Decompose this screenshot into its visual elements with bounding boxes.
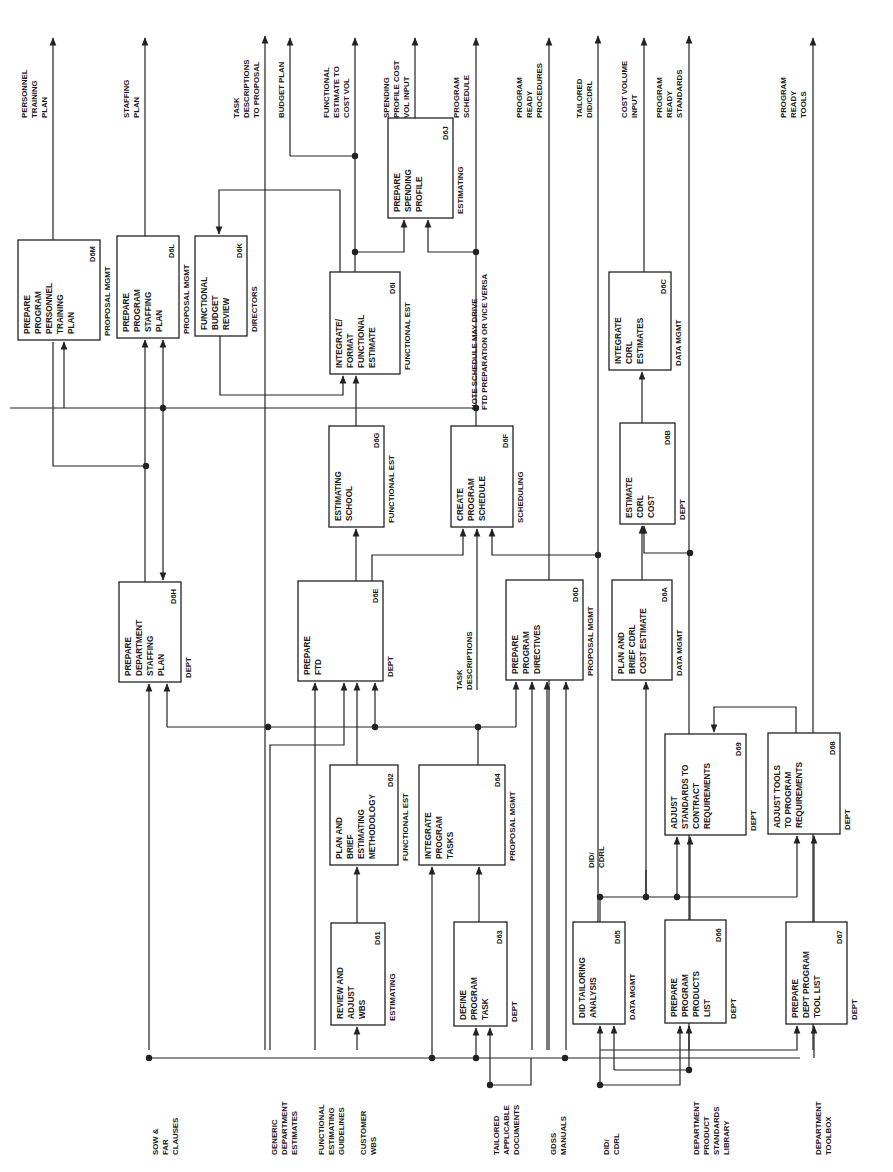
box-label-line: BRIEF bbox=[346, 834, 355, 859]
did-cdrl-label: DID/ bbox=[587, 852, 596, 868]
output-label: BUDGET PLAN bbox=[277, 61, 286, 118]
output-label: PROGRAM bbox=[655, 77, 664, 118]
box-label-line: FTD bbox=[314, 659, 323, 675]
activity-box-d62: PLAN ANDBRIEFESTIMATINGMETHODOLOGYD62FUN… bbox=[330, 765, 410, 865]
box-node-id: D6E bbox=[371, 588, 380, 603]
box-label-line: SCHOOL bbox=[345, 486, 354, 521]
input-label: SOW & bbox=[151, 1128, 160, 1155]
box-label-line: ESTIMATING bbox=[334, 471, 343, 521]
box-label-line: TO PROGRAM bbox=[784, 772, 793, 828]
input-label: TOOLBOX bbox=[824, 1116, 833, 1155]
box-label-line: DEFINE bbox=[459, 989, 468, 1020]
box-label-line: CDRL bbox=[636, 495, 645, 518]
box-label-line: PREPARE bbox=[791, 978, 800, 1018]
output-label: PROGRAM bbox=[452, 77, 461, 118]
output-label: TRAINING bbox=[30, 80, 39, 118]
box-mechanism-label: PROPOSAL MGMT bbox=[182, 264, 191, 334]
input-label: FAR bbox=[161, 1139, 170, 1155]
box-label-line: PREPARE bbox=[122, 292, 131, 332]
activity-box-d6h: PREPAREDEPARTMENTSTAFFINGPLAND6HDEPT bbox=[119, 582, 193, 682]
box-label-line: DID TAILORING bbox=[578, 957, 587, 1018]
box-mechanism-label: DEPT bbox=[749, 810, 758, 831]
box-label-line: TOOL LIST bbox=[813, 976, 822, 1018]
input-label: DEPARTMENT bbox=[692, 1101, 701, 1155]
box-label-line: ADJUST bbox=[670, 796, 679, 829]
output-label: STANDARDS bbox=[675, 70, 684, 118]
box-label-line: CDRL bbox=[625, 341, 634, 364]
box-label-line: ANALYSIS bbox=[589, 977, 598, 1018]
box-label-line: PLAN bbox=[157, 654, 166, 676]
box-node-id: D67 bbox=[835, 930, 844, 944]
box-label-line: PROGRAM bbox=[522, 631, 531, 674]
output-label: TASK bbox=[232, 97, 241, 118]
box-node-id: D61 bbox=[373, 931, 382, 945]
box-label-line: REQUIREMENTS bbox=[703, 763, 712, 829]
input-label: GENERIC bbox=[270, 1119, 279, 1155]
box-mechanism-label: DATA MGMT bbox=[674, 320, 683, 366]
box-label-line: WBS bbox=[358, 999, 367, 1019]
box-label-line: PROFILE bbox=[415, 176, 424, 212]
input-label: PRODUCT bbox=[702, 1116, 711, 1155]
box-label-line: CONTRACT bbox=[692, 783, 701, 829]
input-label: DOCUMENTS bbox=[512, 1105, 521, 1155]
activity-box-d69: ADJUSTSTANDARDS TOCONTRACTREQUIREMENTSD6… bbox=[665, 734, 758, 835]
box-node-id: D69 bbox=[734, 742, 743, 756]
output-label: VOL INPUT bbox=[402, 76, 411, 118]
input-label: STANDARDS bbox=[712, 1107, 721, 1155]
box-label-line: REVIEW AND bbox=[336, 967, 345, 1019]
box-mechanism-label: DEPT bbox=[678, 499, 687, 520]
input-label: CDRL bbox=[612, 1133, 621, 1155]
output-label: PROGRAM bbox=[779, 77, 788, 118]
box-label-line: ESTIMATE bbox=[368, 327, 377, 368]
box-label-line: PROGRAM bbox=[34, 291, 43, 334]
box-label-line: PLAN AND bbox=[335, 817, 344, 859]
box-label-line: METHODOLOGY bbox=[368, 793, 377, 859]
box-label-line: SCHEDULE bbox=[478, 475, 487, 521]
output-label: PERSONNEL bbox=[20, 69, 29, 118]
idef0-process-diagram: PREPAREPROGRAMPERSONNELTRAININGPLAND6MPR… bbox=[0, 0, 893, 1172]
activity-box-d6k: FUNCTIONALBUDGETREVIEWD6KDIRECTORS bbox=[195, 236, 259, 336]
task-descriptions-label: TASK bbox=[455, 669, 464, 690]
activity-box-d66: PREPAREPROGRAMPRODUCTSLISTD66DEPT bbox=[665, 920, 738, 1023]
box-label-line: ADJUST TOOLS bbox=[773, 764, 782, 828]
box-label-line: PROGRAM bbox=[470, 977, 479, 1020]
box-label-line: LIST bbox=[703, 999, 712, 1017]
task-descriptions-label: DESCRIPTIONS bbox=[465, 632, 474, 690]
input-label: TAILORED bbox=[492, 1115, 501, 1155]
activity-box-d6i: INTEGRATE/FORMATFUNCTIONALESTIMATED6IFUN… bbox=[330, 272, 412, 374]
box-label-line: STAFFING bbox=[144, 292, 153, 332]
box-label-line: INTEGRATE/ bbox=[335, 318, 344, 368]
input-label: ESTIMATING bbox=[327, 1107, 336, 1155]
box-mechanism-label: PROPOSAL MGMT bbox=[508, 791, 517, 861]
box-label-line: PREPARE bbox=[23, 294, 32, 334]
box-label-line: PROGRAM bbox=[435, 816, 444, 859]
box-mechanism-label: DEPT bbox=[843, 809, 852, 830]
box-mechanism-label: PROPOSAL MGMT bbox=[586, 606, 595, 676]
box-node-id: D62 bbox=[386, 773, 395, 787]
box-node-id: D6J bbox=[441, 126, 450, 140]
box-mechanism-label: PROPOSAL MGMT bbox=[103, 266, 112, 336]
output-label: READY bbox=[665, 90, 674, 118]
box-node-id: D6L bbox=[167, 243, 176, 258]
activity-box-d63: DEFINEPROGRAMTASKD63DEPT bbox=[454, 922, 519, 1026]
box-label-line: PREPARE bbox=[393, 172, 402, 212]
box-node-id: D6B bbox=[663, 429, 672, 445]
input-label: DEPARTMENT bbox=[814, 1101, 823, 1155]
output-label: DESCRIPTIONS bbox=[242, 60, 251, 118]
box-label-line: STAFFING bbox=[146, 636, 155, 676]
output-label: COST VOLUME bbox=[620, 61, 629, 118]
output-label: ESTIMATE TO bbox=[332, 66, 341, 118]
activity-box-d6b: ESTIMATECDRLCOSTD6BDEPT bbox=[620, 423, 687, 524]
activity-box-d6f: CREATEPROGRAMSCHEDULED6FSCHEDULING bbox=[451, 426, 525, 527]
output-label: COST VOL bbox=[342, 78, 351, 118]
box-label-line: FUNCTIONAL bbox=[357, 315, 366, 368]
box-label-line: PERSONNEL bbox=[45, 283, 54, 334]
box-label-line: PROGRAM bbox=[467, 478, 476, 521]
output-label: SCHEDULE bbox=[462, 75, 471, 118]
activity-boxes: PREPAREPROGRAMPERSONNELTRAININGPLAND6MPR… bbox=[18, 118, 859, 1026]
activity-box-d64: INTEGRATEPROGRAMTASKSD64PROPOSAL MGMT bbox=[419, 765, 517, 865]
box-label-line: CREATE bbox=[456, 487, 465, 521]
output-label: PROFILE COST bbox=[392, 60, 401, 118]
output-label: READY bbox=[525, 90, 534, 118]
output-label: FUNCTIONAL bbox=[322, 67, 331, 118]
